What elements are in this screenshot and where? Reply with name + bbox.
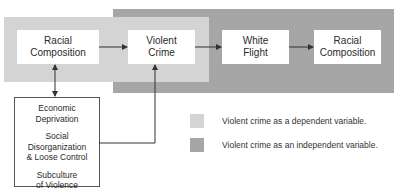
legend-swatch-independent (190, 138, 204, 152)
arrow-factors-to-crime (99, 65, 155, 143)
legend-label-independent: Violent crime as an independent variable… (222, 140, 378, 150)
connector-arrows (0, 0, 399, 189)
legend-swatch-dependent (190, 114, 204, 128)
legend-label-dependent: Violent crime as a dependent variable. (222, 116, 366, 126)
